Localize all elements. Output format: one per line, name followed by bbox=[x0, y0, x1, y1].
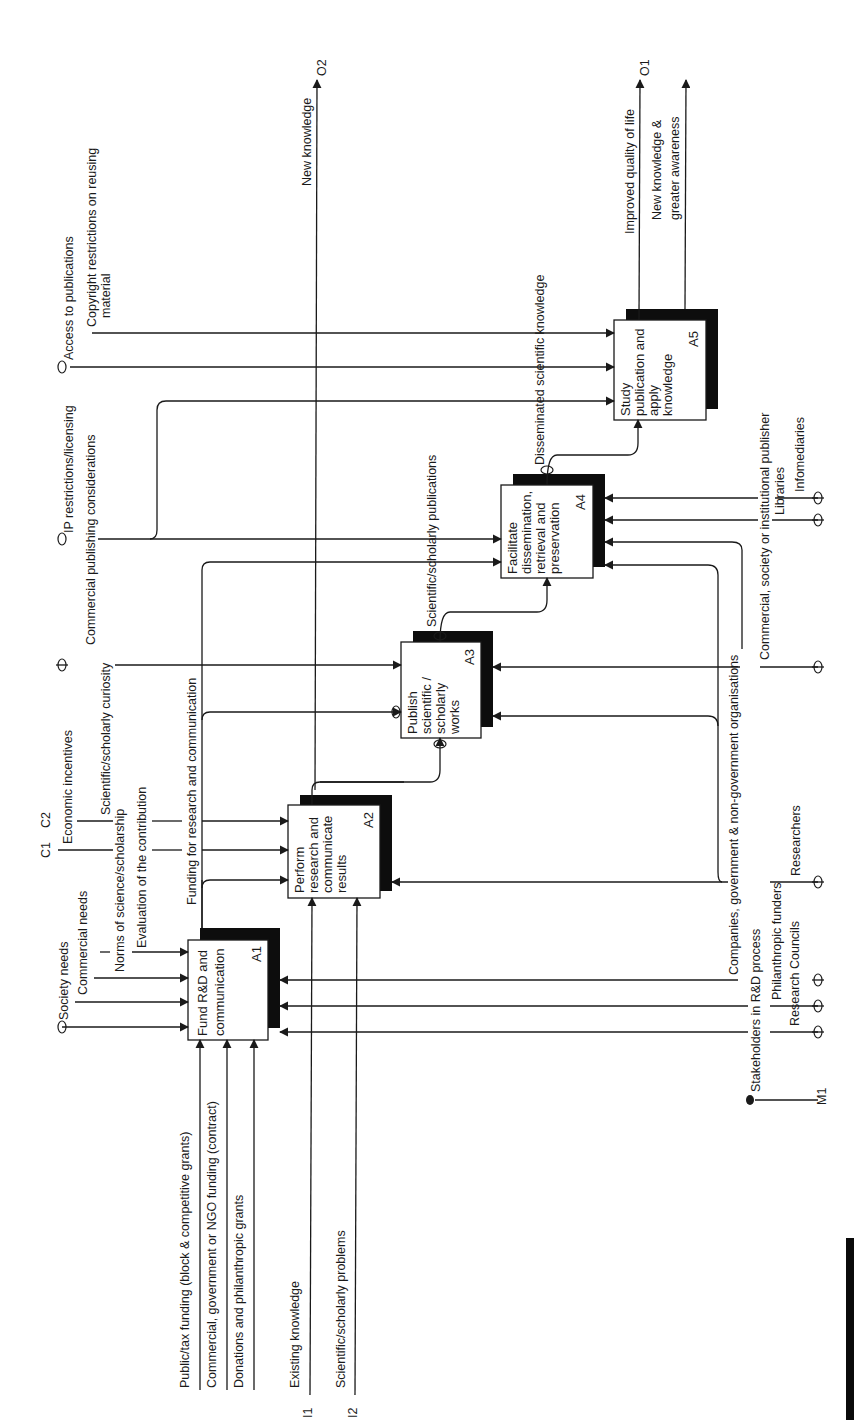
label-m1: M1 bbox=[815, 1088, 829, 1105]
label-evaluation: Evaluation of the contribution bbox=[135, 787, 149, 948]
tunnel-icon bbox=[56, 659, 68, 671]
svg-text:Publish: Publish bbox=[405, 691, 420, 734]
output-labels: New knowledge O2 Improved quality of lif… bbox=[300, 59, 682, 234]
svg-text:preservation: preservation bbox=[547, 502, 562, 574]
label-o1: O1 bbox=[638, 59, 652, 76]
node-id-a1: A1 bbox=[249, 946, 264, 962]
label-norms: Norms of science/scholarship bbox=[113, 809, 127, 972]
input-labels: Public/tax funding (block & competitive … bbox=[178, 1101, 360, 1418]
label-commercial-publishing: Commercial publishing considerations bbox=[84, 434, 98, 645]
svg-text:publication and: publication and bbox=[632, 329, 647, 416]
svg-text:knowledge: knowledge bbox=[660, 354, 675, 416]
tunnel-icon bbox=[812, 514, 824, 526]
svg-text:Fund R&D and: Fund R&D and bbox=[195, 950, 210, 1036]
label-access: Access to publications bbox=[62, 236, 76, 360]
svg-text:communicate: communicate bbox=[320, 816, 335, 893]
label-companies: Companies, government & non-government o… bbox=[727, 655, 741, 975]
tunnel-icon bbox=[58, 361, 66, 373]
label-commercial-funding: Commercial, government or NGO funding (c… bbox=[205, 1101, 219, 1388]
label-awareness-2: greater awareness bbox=[668, 116, 682, 220]
label-publisher: Commercial, society or institutional pub… bbox=[758, 413, 772, 660]
svg-text:dissemination,: dissemination, bbox=[519, 491, 534, 574]
tunnel-icon bbox=[812, 1026, 824, 1038]
tunnel-icon bbox=[58, 533, 66, 545]
svg-text:results: results bbox=[334, 854, 349, 893]
label-copyright-2: material bbox=[99, 274, 113, 318]
label-research-councils: Research Councils bbox=[788, 921, 802, 1026]
node-id-a2: A2 bbox=[361, 812, 376, 828]
label-libraries: Libraries bbox=[773, 467, 787, 515]
label-curiosity: Scientific/scholarly curiosity bbox=[99, 662, 113, 815]
mechanism-labels: Stakeholders in R&D process Companies, g… bbox=[727, 413, 829, 1105]
label-disseminated: Disseminated scientific knowledge bbox=[533, 275, 547, 465]
label-o2: O2 bbox=[315, 59, 329, 76]
label-infomediaries: Infomediaries bbox=[793, 417, 807, 492]
svg-text:Study: Study bbox=[618, 382, 633, 416]
svg-text:retrieval and: retrieval and bbox=[533, 502, 548, 574]
node-id-a4: A4 bbox=[573, 494, 588, 510]
label-philanthropic: Philanthropic funders bbox=[770, 883, 784, 1000]
label-new-knowledge: New knowledge bbox=[300, 98, 314, 186]
svg-text:communication: communication bbox=[212, 949, 227, 1036]
node-id-a5: A5 bbox=[686, 331, 701, 347]
tunnel-icon bbox=[812, 1000, 824, 1012]
svg-text:Facilitate: Facilitate bbox=[505, 522, 520, 574]
svg-text:scientific /: scientific / bbox=[419, 677, 434, 734]
label-awareness-1: New knowledge & bbox=[650, 119, 664, 220]
page-edge-bar bbox=[846, 1238, 854, 1420]
label-i2: I2 bbox=[346, 1408, 360, 1418]
label-economic-incentives: Economic incentives bbox=[61, 730, 75, 844]
label-c1: C1 bbox=[39, 842, 53, 858]
label-funding-flow: Funding for research and communication bbox=[185, 678, 199, 905]
label-i1: I1 bbox=[301, 1408, 315, 1418]
svg-text:scholarly: scholarly bbox=[433, 682, 448, 734]
label-society-needs: Society needs bbox=[57, 941, 71, 1020]
label-stakeholders: Stakeholders in R&D process bbox=[749, 929, 763, 1092]
tunnel-icon bbox=[812, 492, 824, 504]
label-public-funding: Public/tax funding (block & competitive … bbox=[178, 1132, 192, 1388]
svg-text:apply: apply bbox=[646, 384, 661, 416]
idef0-diagram: Fund R&D and communication A1 Perform re… bbox=[0, 0, 854, 1425]
label-ip-restrictions: IP restrictions/licensing bbox=[62, 405, 76, 533]
label-researchers: Researchers bbox=[789, 805, 803, 876]
label-copyright-1: Copyright restrictions on reusing bbox=[85, 148, 99, 327]
tunnel-icon bbox=[812, 876, 824, 888]
label-existing-knowledge: Existing knowledge bbox=[288, 1281, 302, 1388]
svg-text:Perform: Perform bbox=[292, 847, 307, 893]
tunnel-icon bbox=[812, 974, 824, 986]
label-problems: Scientific/scholarly problems bbox=[334, 1230, 348, 1388]
label-quality-of-life: Improved quality of life bbox=[623, 109, 637, 234]
node-id-a3: A3 bbox=[462, 649, 477, 665]
label-publications: Scientific/scholarly publications bbox=[425, 455, 439, 627]
label-donations: Donations and philanthropic grants bbox=[232, 1195, 246, 1388]
tunnel-icon bbox=[746, 1095, 754, 1105]
svg-text:works: works bbox=[447, 700, 462, 735]
svg-text:research and: research and bbox=[306, 817, 321, 893]
label-c2: C2 bbox=[39, 812, 53, 828]
label-commercial-needs: Commercial needs bbox=[76, 891, 90, 995]
tunnel-icon bbox=[812, 661, 824, 673]
